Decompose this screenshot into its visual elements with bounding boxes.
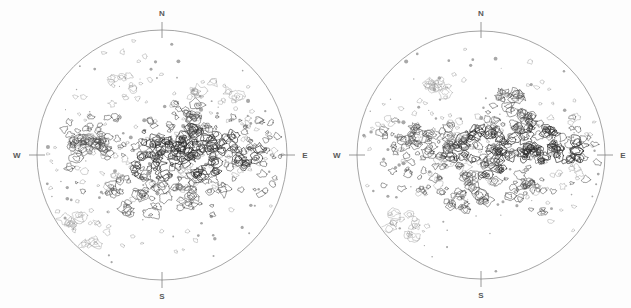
contour-speck — [224, 159, 226, 161]
contour-speck — [213, 255, 215, 257]
contour-speck — [382, 158, 385, 161]
right-disk-panel: N S W E — [315, 0, 631, 308]
contour-speck — [254, 205, 256, 207]
contour-speck — [494, 57, 498, 61]
contour-speck — [424, 245, 425, 246]
contour-speck — [399, 227, 401, 229]
contour-speck — [242, 70, 244, 72]
contour-speck — [248, 232, 250, 234]
contour-speck — [595, 183, 597, 185]
right-label-north: N — [478, 9, 484, 18]
contour-speck — [197, 234, 200, 237]
contour-speck — [531, 200, 532, 201]
contour-speck — [469, 64, 472, 67]
contour-speck — [431, 256, 433, 258]
contour-speck — [495, 270, 498, 273]
contour-speck — [597, 173, 600, 176]
contour-speck — [593, 150, 595, 152]
contour-speck — [404, 60, 408, 64]
contour-speck — [150, 68, 153, 71]
contour-speck — [500, 215, 501, 216]
left-disk-svg: N S W E — [0, 0, 316, 308]
contour-speck — [156, 77, 158, 79]
contour-speck — [170, 43, 173, 46]
contour-speck — [570, 171, 571, 172]
contour-speck — [113, 169, 117, 173]
contour-speck — [369, 130, 372, 133]
contour-speck — [563, 109, 566, 112]
contour-speck — [467, 199, 468, 200]
contour-speck — [485, 97, 487, 99]
right-disk-plot: N S W E — [333, 9, 626, 300]
contour-speck — [479, 116, 483, 120]
left-label-east: E — [302, 151, 308, 160]
contour-speck — [51, 196, 53, 198]
contour-speck — [65, 197, 69, 201]
contour-speck — [211, 100, 213, 102]
contour-speck — [172, 236, 174, 238]
contour-speck — [506, 116, 507, 117]
contour-speck — [64, 216, 67, 219]
contour-speck — [100, 191, 103, 194]
contour-speck — [435, 117, 437, 119]
right-label-east: E — [620, 151, 626, 160]
contour-speck — [217, 183, 219, 185]
contour-speck — [60, 181, 62, 183]
contour-speck — [573, 132, 574, 133]
contour-speck — [66, 186, 69, 189]
contour-speck — [154, 60, 157, 63]
left-disk-plot: N S W E — [13, 9, 308, 301]
contour-speck — [571, 194, 573, 196]
contour-speck — [416, 53, 419, 56]
contour-speck — [89, 111, 91, 113]
right-label-south: S — [478, 291, 484, 300]
contour-speck — [591, 196, 593, 198]
contour-speck — [199, 108, 203, 112]
contour-speck — [450, 163, 451, 164]
contour-speck — [489, 233, 491, 235]
contour-speck — [475, 215, 477, 217]
contour-speck — [163, 105, 166, 108]
contour-speck — [139, 78, 140, 79]
left-disk-panel: N S W E — [0, 0, 316, 308]
contour-speck — [85, 160, 86, 161]
contour-speck — [397, 163, 400, 166]
contour-speck — [246, 99, 250, 103]
contour-speck — [395, 196, 398, 199]
contour-speck — [482, 107, 484, 109]
contour-speck — [401, 120, 405, 124]
contour-speck — [446, 246, 448, 248]
contour-speck — [417, 106, 420, 109]
contour-speck — [98, 196, 101, 199]
contour-speck — [454, 133, 456, 135]
contour-speck — [142, 184, 144, 186]
contour-speck — [142, 118, 146, 122]
contour-speck — [386, 148, 389, 151]
contour-speck — [200, 222, 203, 225]
contour-speck — [446, 229, 448, 231]
contour-speck — [218, 107, 219, 108]
contour-speck — [563, 70, 566, 73]
contour-speck — [386, 195, 389, 198]
contour-speck — [509, 168, 511, 170]
contour-speck — [572, 136, 574, 138]
contour-speck — [401, 161, 405, 165]
contour-speck — [370, 111, 372, 113]
left-label-north: N — [159, 9, 165, 18]
left-label-south: S — [159, 292, 165, 301]
solar-disk-figure: N S W E N S W E — [0, 0, 631, 308]
contour-speck — [264, 110, 266, 112]
contour-speck — [52, 163, 53, 164]
contour-speck — [410, 186, 411, 187]
contour-speck — [70, 199, 73, 202]
contour-speck — [65, 109, 66, 110]
contour-speck — [257, 188, 259, 190]
contour-speck — [550, 207, 553, 210]
contour-speck — [176, 59, 180, 63]
contour-speck — [515, 204, 518, 207]
contour-speck — [46, 145, 50, 149]
contour-speck — [93, 68, 96, 71]
contour-speck — [413, 78, 415, 80]
contour-speck — [46, 182, 49, 185]
contour-speck — [79, 65, 81, 67]
